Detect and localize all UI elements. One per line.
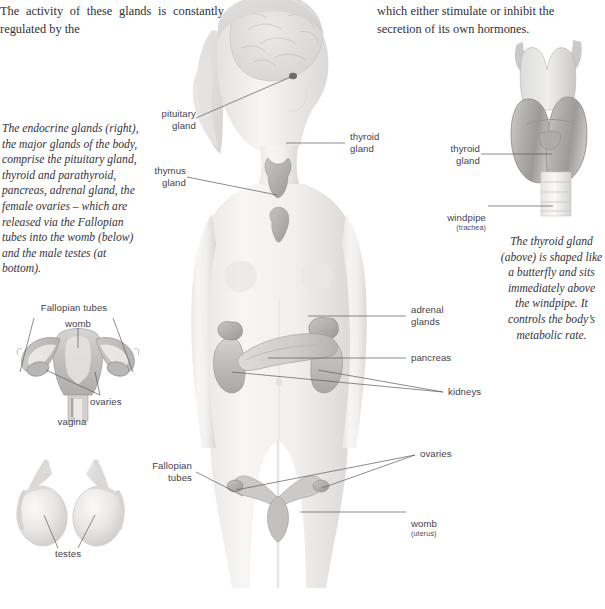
- body-text-right-line-1: which either stimulate or inhibit the: [377, 2, 605, 20]
- label-thymus-gland: thymus gland: [130, 165, 186, 188]
- label-kidneys: kidneys: [448, 386, 508, 398]
- testes-figure: [8, 458, 133, 558]
- label-windpipe: windpipe (trachea): [420, 200, 486, 244]
- body-text-left: The activity of these glands is constant…: [0, 4, 224, 36]
- body-text-left-column: The activity of these glands is constant…: [0, 2, 224, 38]
- label-thyroid-gland-body: thyroid gland: [350, 131, 420, 154]
- label-womb-repro: womb: [54, 318, 102, 330]
- caption-thyroid-gland: The thyroid gland (above) is shaped like…: [500, 234, 603, 343]
- label-fallopian-tubes-repro: Fallopian tubes: [24, 302, 124, 314]
- label-testes: testes: [44, 548, 92, 560]
- label-windpipe-subtext: (trachea): [420, 223, 486, 232]
- label-fallopian-tubes-body: Fallopian tubes: [130, 460, 192, 483]
- caption-endocrine-glands: The endocrine glands (right), the major …: [2, 121, 148, 277]
- label-windpipe-text: windpipe: [447, 212, 486, 223]
- label-adrenal-glands: adrenal glands: [411, 304, 481, 327]
- label-pancreas: pancreas: [411, 352, 481, 364]
- body-text-right-line-2: secretion of its own hormones.: [377, 20, 605, 38]
- label-womb-body-subtext: (uterus): [411, 529, 481, 538]
- label-womb-body-text: womb: [411, 518, 437, 529]
- label-thyroid-gland-detail: thyroid gland: [440, 143, 480, 166]
- label-vagina: vagina: [44, 416, 100, 428]
- label-ovaries-repro: ovaries: [90, 396, 146, 408]
- label-pituitary-gland: pituitary gland: [138, 108, 196, 131]
- thyroid-gland-detail-figure: [495, 38, 600, 220]
- label-ovaries-body: ovaries: [420, 448, 480, 460]
- body-text-right-column: which either stimulate or inhibit the se…: [377, 2, 605, 38]
- label-womb-body: womb (uterus): [411, 506, 481, 550]
- page-canvas: The activity of these glands is constant…: [0, 0, 605, 609]
